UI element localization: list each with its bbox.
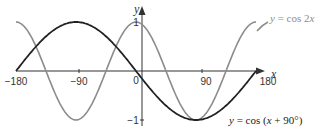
chart: −180 −90 0 90 180 1 −1 y x y = cos 2x y … [0,0,322,129]
tick-label-yneg1: −1 [127,115,139,126]
cos-x-plus-90-label: y = cos (x + 90°) [228,114,303,127]
tick-label-neg180: −180 [5,76,28,87]
tick-label-neg90: −90 [71,76,88,87]
cos2x-label: y = cos 2x [269,12,315,24]
cos2x-leader [257,22,268,31]
tick-label-y1: 1 [133,17,139,28]
origin-label: 0 [133,75,139,86]
y-axis-label: y [133,2,140,16]
tick-label-90: 90 [200,76,212,87]
x-axis-arrow-icon [256,68,265,75]
y-axis-arrow-icon [139,6,146,15]
x-axis-label: x [270,67,277,81]
